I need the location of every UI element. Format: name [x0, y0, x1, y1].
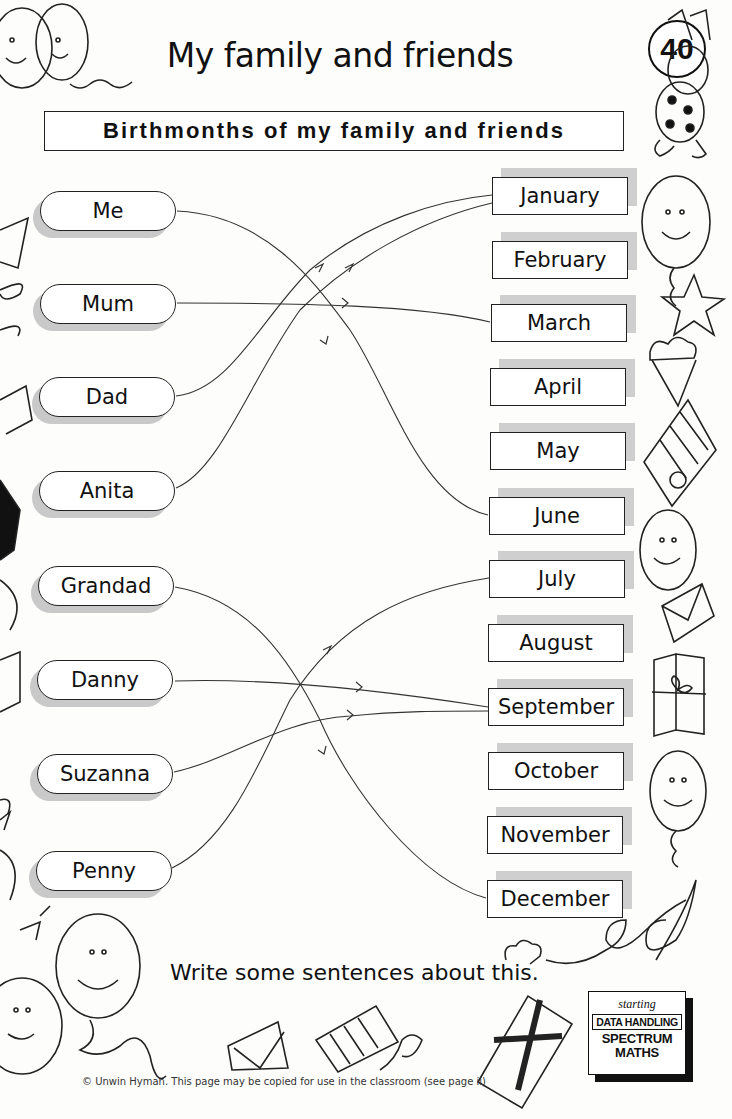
month-box-july: July [489, 560, 625, 598]
writing-prompt: Write some sentences about this. [170, 960, 539, 985]
month-box-june: June [489, 497, 625, 535]
ice-cream-icon [650, 337, 696, 406]
month-box-november: November [487, 816, 623, 854]
person-label-mum: Mum [40, 284, 176, 324]
person-label-me: Me [40, 191, 176, 231]
balloon-icon [0, 580, 17, 630]
month-box-february: February [492, 241, 628, 279]
month-box-october: October [488, 752, 624, 790]
envelope-icon [662, 584, 714, 642]
logo-data-handling: DATA HANDLING [592, 1014, 682, 1030]
envelope-icon [0, 386, 32, 434]
envelope-icon [228, 1022, 288, 1070]
person-label-grandad: Grandad [38, 566, 174, 606]
month-box-january: January [492, 177, 628, 215]
copyright-notice: © Unwin Hyman. This page may be copied f… [82, 1076, 486, 1087]
balloon-icon [0, 4, 132, 88]
person-label-suzanna: Suzanna [37, 754, 173, 794]
gift-icon [652, 654, 706, 736]
gift-icon [0, 480, 20, 560]
ribbon-icon [646, 880, 696, 960]
envelope-icon [0, 218, 28, 268]
month-box-august: August [488, 624, 624, 662]
month-box-september: September [488, 688, 624, 726]
logo-spectrum: SPECTRUM [589, 1032, 685, 1046]
month-box-may: May [490, 432, 626, 470]
logo-maths: MATHS [589, 1046, 685, 1060]
spectrum-maths-logo: starting DATA HANDLING SPECTRUM MATHS [588, 991, 686, 1075]
month-box-march: March [491, 304, 627, 342]
person-label-anita: Anita [39, 471, 175, 511]
gift-icon [0, 652, 20, 712]
logo-starting: starting [589, 997, 685, 1012]
gift-icon [644, 400, 716, 506]
balloon-icon [640, 510, 696, 590]
rabbit-icon [655, 10, 710, 158]
cracker-icon [316, 1006, 422, 1072]
balloon-icon [642, 176, 710, 306]
month-box-april: April [490, 368, 626, 406]
person-label-penny: Penny [36, 851, 172, 891]
balloon-icon [0, 906, 166, 1079]
person-label-dad: Dad [39, 377, 175, 417]
person-label-danny: Danny [37, 660, 173, 700]
balloon-icon [650, 751, 706, 867]
month-box-december: December [487, 880, 623, 918]
